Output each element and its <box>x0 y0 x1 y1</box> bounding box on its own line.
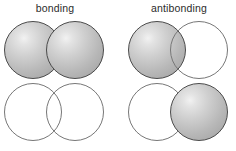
panel-bonding-label: bonding <box>1 2 109 15</box>
bonding-bottom-right-orbital <box>46 83 104 141</box>
orbital-overlap-figure: bonding antibonding <box>0 0 236 151</box>
antibonding-orbital-grid <box>125 21 233 145</box>
bonding-orbital-grid <box>1 21 109 145</box>
panel-antibonding: antibonding <box>125 0 233 151</box>
bonding-top-right-orbital <box>46 21 104 79</box>
panel-bonding: bonding <box>1 0 109 151</box>
antibonding-bottom-right-orbital <box>170 83 228 141</box>
panel-antibonding-label: antibonding <box>125 2 233 15</box>
antibonding-top-right-orbital <box>170 21 228 79</box>
